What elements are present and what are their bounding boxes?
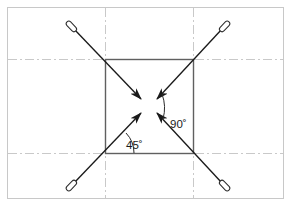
arrow-tail-capsule: [218, 179, 230, 192]
arrow-tail-capsule: [65, 20, 77, 33]
angle-45-dimension: 45˚: [126, 133, 143, 153]
center-lines-vertical: [106, 8, 194, 198]
arrow-shaft: [157, 113, 222, 183]
angle-90-dimension: 90˚: [162, 94, 187, 130]
arrow-tail-capsule: [218, 20, 230, 33]
center-lines-horizontal: [8, 60, 283, 154]
outer-border: [8, 8, 284, 199]
arrow-shaft: [74, 29, 141, 99]
diagram-canvas: 45˚ 90˚: [0, 0, 291, 206]
arrow-shaft: [157, 29, 222, 99]
arrow-from-bottom-left: [65, 113, 141, 192]
arrow-tail-capsule: [65, 179, 77, 192]
technical-drawing-svg: 45˚ 90˚: [0, 0, 291, 206]
angle-90-arc: [162, 94, 165, 119]
angle-45-label: 45˚: [126, 139, 143, 151]
angle-90-label: 90˚: [170, 118, 187, 130]
